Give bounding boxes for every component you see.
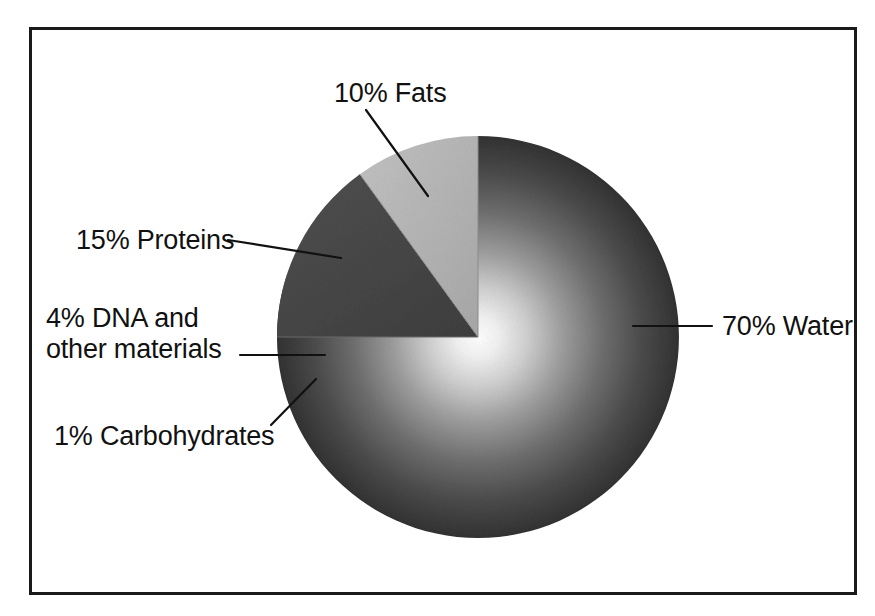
- slice-label-dna-line1: 4% DNA and: [46, 303, 296, 334]
- figure-root: 10% Fats 15% Proteins 4% DNA and other m…: [0, 0, 875, 616]
- slice-label-water: 70% Water: [722, 311, 853, 342]
- pie-slices-group: [277, 136, 679, 538]
- slice-label-proteins: 15% Proteins: [76, 225, 234, 256]
- slice-label-carbohydrates: 1% Carbohydrates: [54, 421, 274, 452]
- slice-label-dna-line2: other materials: [46, 334, 296, 365]
- slice-label-dna: 4% DNA and other materials: [46, 303, 296, 365]
- slice-label-fats: 10% Fats: [334, 78, 446, 109]
